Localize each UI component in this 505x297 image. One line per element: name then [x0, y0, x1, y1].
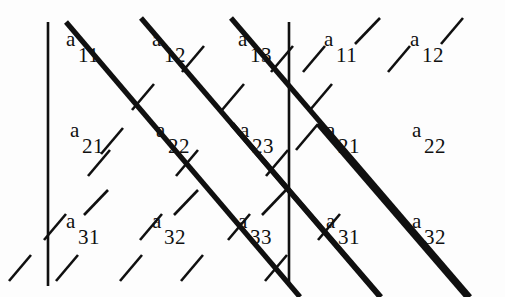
- matrix-entry-a31: a31: [326, 211, 335, 232]
- thin-diagonal-dash: [388, 46, 410, 72]
- matrix-entry-a13: a13: [238, 29, 247, 50]
- matrix-entry-base: a: [156, 118, 165, 142]
- matrix-entry-a31: a31: [66, 211, 75, 232]
- thin-diagonal-dash: [222, 84, 244, 110]
- matrix-entry-base: a: [70, 118, 79, 142]
- matrix-entry-subscript: 33: [250, 227, 272, 248]
- thin-diagonal-dash: [84, 190, 108, 215]
- matrix-entry-a32: a32: [412, 211, 421, 232]
- matrix-diagram-canvas: a11a12a13a11a12a21a22a23a21a22a31a32a33a…: [0, 0, 505, 297]
- matrix-entry-a23: a23: [240, 120, 249, 141]
- matrix-entry-a12: a12: [152, 29, 161, 50]
- matrix-entry-a22: a22: [412, 120, 421, 141]
- thin-diagonal-dash: [9, 255, 31, 281]
- matrix-entry-base: a: [324, 27, 333, 51]
- matrix-entry-a11: a11: [66, 29, 75, 50]
- matrix-entry-a21: a21: [326, 120, 335, 141]
- matrix-entry-subscript: 21: [338, 136, 360, 157]
- thin-diagonal-dash: [303, 46, 325, 72]
- matrix-entry-subscript: 23: [252, 136, 274, 157]
- matrix-entry-base: a: [240, 118, 249, 142]
- matrix-entry-base: a: [326, 209, 335, 233]
- thin-diagonal-dash: [181, 255, 203, 281]
- matrix-entry-subscript: 32: [164, 227, 186, 248]
- matrix-entry-base: a: [152, 27, 161, 51]
- matrix-entry-subscript: 31: [78, 227, 100, 248]
- matrix-entry-base: a: [66, 209, 75, 233]
- matrix-entry-base: a: [410, 27, 419, 51]
- thin-diagonal-dash: [355, 18, 380, 44]
- matrix-entry-subscript: 13: [250, 45, 272, 66]
- matrix-entry-subscript: 31: [338, 227, 360, 248]
- matrix-entry-base: a: [238, 209, 247, 233]
- matrix-entry-a12: a12: [410, 29, 419, 50]
- matrix-entry-subscript: 11: [336, 45, 357, 66]
- matrix-entry-subscript: 32: [424, 227, 446, 248]
- thin-diagonal-dash: [441, 18, 463, 44]
- matrix-entry-subscript: 21: [82, 136, 104, 157]
- thin-diagonal-dash: [120, 255, 142, 281]
- matrix-entry-subscript: 12: [422, 45, 444, 66]
- matrix-entry-subscript: 22: [168, 136, 190, 157]
- thin-diagonal-dash: [174, 190, 198, 215]
- matrix-entry-base: a: [412, 209, 421, 233]
- matrix-entry-a21: a21: [70, 120, 79, 141]
- matrix-entry-a32: a32: [152, 211, 161, 232]
- matrix-entry-base: a: [412, 118, 421, 142]
- matrix-entry-base: a: [152, 209, 161, 233]
- thin-diagonal-dash: [101, 128, 123, 154]
- matrix-entry-a22: a22: [156, 120, 165, 141]
- matrix-entry-base: a: [238, 27, 247, 51]
- matrix-entry-subscript: 12: [164, 45, 186, 66]
- thin-diagonal-dash: [56, 255, 78, 281]
- thin-diagonal-dash: [296, 124, 318, 150]
- matrix-entry-a11: a11: [324, 29, 333, 50]
- matrix-entry-subscript: 22: [424, 136, 446, 157]
- matrix-entry-base: a: [326, 118, 335, 142]
- thin-diagonal-dash: [262, 190, 286, 215]
- matrix-entry-base: a: [66, 27, 75, 51]
- matrix-entry-a33: a33: [238, 211, 247, 232]
- matrix-entry-subscript: 11: [78, 45, 99, 66]
- thin-diagonal-dash: [310, 84, 332, 110]
